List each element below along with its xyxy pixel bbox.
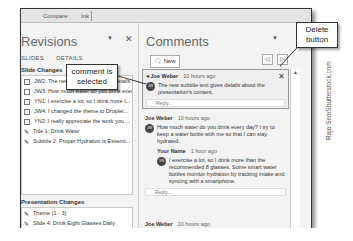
callout-delete-button: Delete button <box>296 22 338 48</box>
photo-credit: Raja Sen/Shutterstock.com <box>325 61 332 140</box>
